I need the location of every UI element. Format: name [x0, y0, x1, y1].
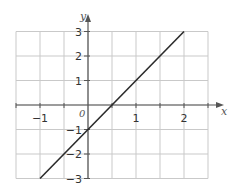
y-tick-label: 3 [75, 26, 82, 39]
y-tick-label: 1 [75, 75, 82, 88]
coordinate-plane: −112321−1−2−3 x y 0 [0, 0, 236, 192]
y-tick-label: 2 [75, 50, 82, 63]
x-tick-label: −1 [32, 112, 48, 125]
x-tick-label: 2 [181, 112, 188, 125]
origin-label: 0 [79, 108, 86, 119]
x-tick-label: 1 [133, 112, 140, 125]
line-graph: −112321−1−2−3 x y 0 [0, 0, 236, 192]
y-tick-label: −1 [66, 124, 82, 137]
x-axis-label: x [221, 105, 228, 118]
y-axis-label: y [79, 10, 87, 23]
y-tick-label: −3 [66, 173, 82, 186]
